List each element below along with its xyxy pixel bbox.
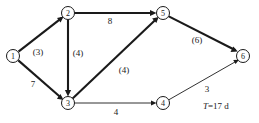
- edge-2-3-weight: (4): [73, 48, 84, 58]
- edge-1-3-line: [18, 60, 61, 98]
- edge-4-6-weight: 3: [205, 84, 210, 94]
- node-6-label: 6: [241, 52, 245, 61]
- nodes-layer: 1 2 3 4 5 6: [7, 7, 250, 110]
- edge-2-5-weight: 8: [108, 16, 113, 26]
- edge-1-2-weight: (3): [33, 47, 44, 57]
- edge-5-6-weight: (6): [192, 35, 203, 45]
- edge-3-5-weight: (4): [119, 65, 130, 75]
- edge-3-4-arrowhead: [151, 101, 157, 106]
- edge-4-6-line: [169, 61, 237, 100]
- duration-value: =17 d: [208, 101, 229, 111]
- edge-5-6: [169, 16, 238, 52]
- edge-2-5-arrowhead: [150, 10, 157, 16]
- node-5-label: 5: [161, 9, 165, 18]
- edge-3-5-line: [73, 19, 157, 99]
- node-3-label: 3: [66, 99, 70, 108]
- edge-1-3: [18, 60, 63, 100]
- node-2[interactable]: 2: [62, 7, 75, 20]
- edge-3-5: [73, 17, 159, 99]
- node-3[interactable]: 3: [62, 97, 75, 110]
- node-2-label: 2: [66, 9, 70, 18]
- node-1-label: 1: [11, 52, 15, 61]
- edge-2-3-arrowhead: [65, 90, 71, 97]
- edge-5-6-line: [169, 16, 236, 50]
- network-diagram: 1 2 3 4 5 6 (3): [0, 0, 259, 123]
- edge-2-5: [75, 10, 157, 16]
- edge-labels-layer: (3) 7 (4) 8 (4) 4 (6) 3: [31, 16, 210, 117]
- total-duration-annotation: T=17 d: [203, 101, 229, 111]
- node-6[interactable]: 6: [237, 50, 250, 63]
- edge-1-3-weight: 7: [31, 79, 36, 89]
- edge-2-3: [65, 20, 71, 97]
- edge-3-4: [75, 101, 157, 106]
- node-5[interactable]: 5: [157, 7, 170, 20]
- node-1[interactable]: 1: [7, 50, 20, 63]
- node-4-label: 4: [161, 99, 165, 108]
- node-4[interactable]: 4: [157, 97, 170, 110]
- edge-3-4-weight: 4: [114, 107, 119, 117]
